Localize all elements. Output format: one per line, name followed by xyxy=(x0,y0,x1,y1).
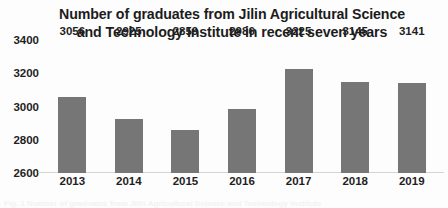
bar-group: 2859 xyxy=(157,40,214,173)
plot-area: 2600 2800 3000 3200 3400 3056 2925 2859 … xyxy=(44,40,440,173)
bars-layer: 3056 2925 2859 2986 3225 3145 xyxy=(44,40,440,173)
bar xyxy=(115,119,143,173)
bar-value-label: 2859 xyxy=(173,26,199,38)
bar xyxy=(285,69,313,173)
figure-caption: Fig. 1 Number of graduates from Jilin Ag… xyxy=(4,199,444,208)
bar-value-label: 2925 xyxy=(116,26,142,38)
bar-value-label: 3141 xyxy=(399,26,425,38)
x-axis: 2013 2014 2015 2016 2017 2018 2019 xyxy=(44,175,440,187)
y-axis-tick: 3000 xyxy=(13,101,39,113)
bar xyxy=(58,97,86,173)
y-axis-tick: 3400 xyxy=(13,34,39,46)
bar-group: 3145 xyxy=(327,40,384,173)
x-axis-tick: 2015 xyxy=(157,175,214,187)
x-axis-tick: 2019 xyxy=(383,175,440,187)
x-axis-tick: 2013 xyxy=(44,175,101,187)
bar-group: 3141 xyxy=(383,40,440,173)
bar-value-label: 3056 xyxy=(59,26,85,38)
bar xyxy=(171,130,199,173)
bar-group: 3056 xyxy=(44,40,101,173)
bar xyxy=(341,82,369,173)
y-axis-tick: 2600 xyxy=(13,167,39,179)
x-axis-tick: 2017 xyxy=(270,175,327,187)
bar-chart-figure: Number of graduates from Jilin Agricultu… xyxy=(0,0,448,208)
bar-group: 3225 xyxy=(270,40,327,173)
bar-value-label: 3145 xyxy=(342,26,368,38)
bar-group: 2925 xyxy=(101,40,158,173)
bar xyxy=(228,109,256,173)
bar xyxy=(398,83,426,173)
bar-value-label: 3225 xyxy=(286,26,312,38)
bar-group: 2986 xyxy=(214,40,271,173)
y-axis-tick: 2800 xyxy=(13,134,39,146)
y-axis-tick: 3200 xyxy=(13,67,39,79)
x-axis-tick: 2014 xyxy=(101,175,158,187)
x-axis-tick: 2016 xyxy=(214,175,271,187)
bar-value-label: 2986 xyxy=(229,26,255,38)
x-axis-tick: 2018 xyxy=(327,175,384,187)
